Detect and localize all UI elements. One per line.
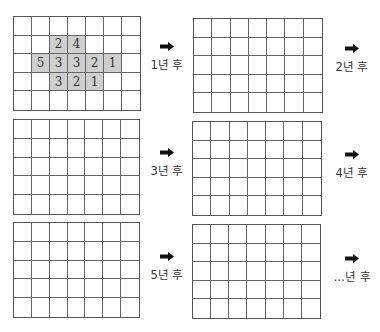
grid-cell	[14, 279, 32, 298]
grid-cell	[122, 91, 140, 110]
grid-cell	[122, 17, 140, 36]
grid-cell	[266, 244, 284, 263]
grid-cell	[68, 242, 86, 261]
grid-cell: 1	[86, 73, 104, 92]
grid-cell	[14, 17, 32, 36]
grid-cell	[303, 159, 321, 178]
grid-cell	[14, 223, 32, 242]
grid-cell	[248, 141, 266, 160]
grid-cell	[212, 19, 230, 38]
step-label: 1년 후	[145, 56, 189, 72]
grid-cell	[267, 93, 285, 112]
grid-cell	[211, 299, 229, 318]
grid-cell	[266, 196, 284, 215]
grid-cell	[303, 178, 321, 197]
grid-cell	[68, 91, 86, 110]
grid-cell	[266, 159, 284, 178]
grid-cell	[231, 75, 249, 94]
grid-cell	[284, 225, 302, 244]
grid-cell	[266, 281, 284, 300]
grid-cell	[302, 281, 320, 300]
grid-year-2	[13, 119, 140, 215]
grid-cell	[211, 225, 229, 244]
grid-cell	[122, 54, 140, 73]
grid-cell	[103, 120, 121, 139]
grid-year-1	[193, 18, 323, 113]
grid-cell	[304, 93, 322, 112]
right-arrow-icon	[160, 148, 174, 157]
grid-cell	[68, 139, 86, 158]
grid-cell	[86, 17, 104, 36]
grid-cell	[194, 75, 212, 94]
grid-cell	[194, 38, 212, 57]
grid-cell: 5	[32, 54, 50, 73]
grid-cell	[249, 75, 267, 94]
grid-cell	[14, 36, 32, 55]
grid-cell: 1	[104, 54, 122, 73]
grid-cell	[68, 120, 86, 139]
grid-cell	[50, 298, 68, 317]
step-3-years: 3년 후	[145, 148, 189, 178]
grid-cell	[284, 159, 302, 178]
grid-cell	[212, 56, 230, 75]
grid-cell	[212, 93, 230, 112]
grid-cell	[211, 196, 229, 215]
grid-cell	[50, 91, 68, 110]
grid-cell	[85, 279, 103, 298]
grid-cell	[14, 176, 32, 195]
grid-cell	[285, 19, 303, 38]
grid-cell	[194, 19, 212, 38]
grid-cell: 2	[50, 36, 68, 55]
grid-cell	[284, 299, 302, 318]
grid-cell	[302, 262, 320, 281]
step-label: 3년 후	[145, 162, 189, 178]
grid-cell	[211, 281, 229, 300]
step-1-year: 1년 후	[145, 42, 189, 72]
step-5-years: 5년 후	[145, 252, 189, 282]
grid-cell	[14, 242, 32, 261]
grid-cell	[85, 298, 103, 317]
grid-cell	[211, 159, 229, 178]
grid-initial: 2453321321	[13, 16, 141, 111]
grid-cell	[104, 36, 122, 55]
right-arrow-icon	[345, 44, 359, 53]
grid-cell	[247, 225, 265, 244]
grid-cell	[211, 244, 229, 263]
grid-cell	[50, 261, 68, 280]
grid-year-4	[13, 222, 140, 318]
grid-cell	[247, 262, 265, 281]
grid-cell	[50, 195, 68, 214]
grid-cell	[122, 36, 140, 55]
grid-cell	[193, 225, 211, 244]
grid-cell	[32, 158, 50, 177]
grid-cell	[284, 141, 302, 160]
grid-cell	[14, 261, 32, 280]
grid-cell	[103, 242, 121, 261]
grid-cell	[248, 159, 266, 178]
grid-cell	[304, 56, 322, 75]
grid-cell	[122, 73, 140, 92]
grid-cell	[50, 176, 68, 195]
grid-cell	[284, 262, 302, 281]
grid-cell	[302, 225, 320, 244]
grid-cell	[284, 244, 302, 263]
grid-cell	[285, 93, 303, 112]
grid-cell	[103, 195, 121, 214]
grid-cell	[32, 36, 50, 55]
grid-cell	[103, 176, 121, 195]
grid-cell	[193, 178, 211, 197]
grid-cell	[248, 178, 266, 197]
grid-cell	[231, 19, 249, 38]
grid-cell	[32, 261, 50, 280]
grid-cell	[303, 196, 321, 215]
grid-cell	[267, 19, 285, 38]
grid-cell	[68, 261, 86, 280]
grid-cell	[247, 299, 265, 318]
grid-cell	[121, 158, 139, 177]
grid-cell: 3	[50, 54, 68, 73]
grid-cell	[68, 195, 86, 214]
grid-cell	[230, 196, 248, 215]
grid-cell	[32, 139, 50, 158]
grid-cell	[85, 195, 103, 214]
grid-cell	[14, 91, 32, 110]
